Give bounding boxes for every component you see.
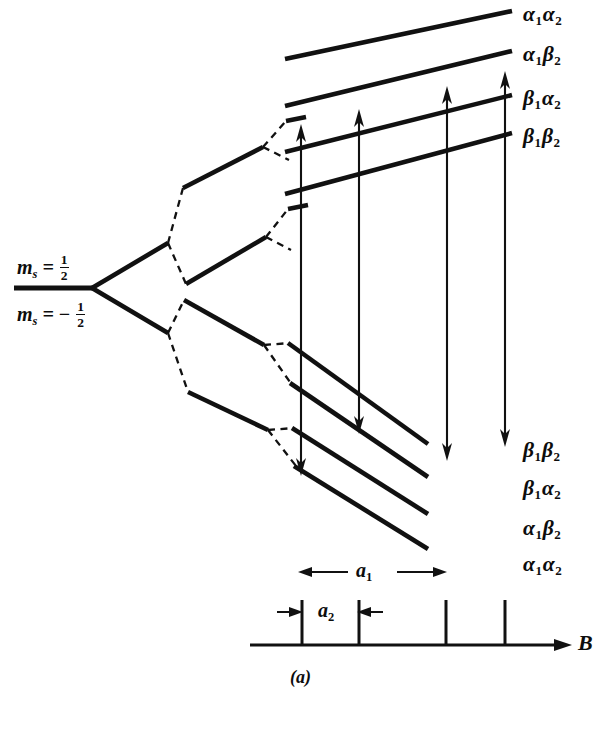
state-label-lower-a1a2: α1α2: [523, 554, 563, 577]
level-mid-lower-2: [188, 392, 268, 430]
level-mid-upper-2: [186, 237, 266, 284]
ms-lower-denominator: 2: [76, 315, 85, 329]
level-mid-upper-1: [183, 147, 263, 188]
state-label-upper-b1a2: β1α2: [523, 88, 562, 111]
coupling-a1-symbol: a: [356, 559, 366, 581]
transition-arrow-1: [296, 124, 306, 476]
glyph-sub: 1: [535, 13, 542, 28]
level-lower-a1a2: [294, 466, 428, 549]
glyph-sub: 1: [535, 563, 542, 578]
figure-caption: (a): [290, 668, 311, 686]
diagram-canvas: [0, 0, 601, 732]
dash-upper-fork-2b: [266, 237, 291, 250]
dash-upper-fork-1b: [263, 147, 289, 160]
ms-upper-numerator: 1: [60, 253, 69, 268]
state-label-upper-b1b2: β1β2: [523, 126, 561, 149]
level-mid-lower-1: [184, 300, 264, 345]
glyph-alpha: α: [523, 552, 535, 576]
ms-upper-eq: =: [37, 256, 58, 278]
glyph-beta: β: [543, 516, 554, 540]
glyph-beta: β: [523, 124, 534, 148]
coupling-label-a1: a1: [356, 560, 372, 583]
ms-label-lower: ms = − 12: [17, 300, 85, 330]
dash-upper-split-b: [168, 243, 186, 284]
glyph-sub: 2: [555, 13, 562, 28]
ms-lower-eq: =: [37, 303, 58, 325]
glyph-sub: 2: [554, 527, 561, 542]
fork-branch-upper: [92, 243, 168, 288]
state-label-upper-a1b2: α1β2: [523, 44, 562, 67]
ms-upper-denominator: 2: [60, 268, 69, 282]
glyph-alpha: α: [523, 42, 535, 66]
coupling-a2-sub: 2: [328, 610, 334, 624]
dash-lower-fork-2b: [268, 430, 296, 466]
spectrum-axis-arrowhead: [554, 639, 572, 651]
coupling-measure-a1: [298, 567, 447, 577]
coupling-label-a2: a2: [318, 600, 334, 623]
transition-arrow-3: [442, 86, 452, 461]
level-upper-a1b2: [285, 51, 512, 106]
glyph-sub: 2: [554, 53, 561, 68]
transition-arrow-2: [354, 109, 364, 434]
glyph-alpha: α: [543, 552, 555, 576]
glyph-beta: β: [523, 438, 534, 462]
glyph-alpha: α: [523, 516, 535, 540]
level-lower-a1b2: [292, 428, 428, 514]
level-upper-a1a2: [285, 11, 512, 59]
glyph-sub: 2: [554, 487, 561, 502]
level-upper-connector-1: [286, 117, 306, 121]
glyph-alpha: α: [523, 2, 535, 26]
dash-lower-fork-1b: [264, 345, 292, 385]
ms-lower-fraction: 12: [76, 300, 85, 330]
dash-lower-split-b: [168, 333, 188, 392]
glyph-sub: 1: [535, 487, 542, 502]
dash-lower-fork-1a: [264, 343, 290, 345]
state-label-upper-a1a2: α1α2: [523, 4, 563, 27]
coupling-a2-symbol: a: [318, 599, 328, 621]
state-label-lower-a1b2: α1β2: [523, 518, 562, 541]
dash-lower-split-a: [168, 300, 184, 333]
glyph-beta: β: [542, 438, 553, 462]
fork-branch-lower: [92, 288, 168, 333]
glyph-alpha: α: [543, 2, 555, 26]
dash-upper-fork-2a: [266, 209, 288, 237]
glyph-sub: 1: [535, 97, 542, 112]
glyph-sub: 1: [535, 449, 542, 464]
dash-upper-fork-1a: [263, 121, 286, 147]
energy-level-figure: ms = 12 ms = − 12 α1α2 α1β2 β1α2 β1β2 β1…: [0, 0, 601, 732]
ms-upper-symbol: m: [17, 256, 33, 278]
dash-lower-fork-2a: [268, 428, 294, 430]
glyph-sub: 2: [555, 563, 562, 578]
ms-lower-symbol: m: [17, 303, 33, 325]
glyph-sub: 2: [553, 449, 560, 464]
glyph-beta: β: [523, 476, 534, 500]
glyph-sub: 2: [553, 135, 560, 150]
dash-upper-split-a: [168, 188, 183, 243]
glyph-alpha: α: [542, 476, 554, 500]
glyph-beta: β: [542, 124, 553, 148]
glyph-alpha: α: [542, 86, 554, 110]
glyph-sub: 1: [535, 527, 542, 542]
ms-label-upper: ms = 12: [17, 253, 69, 283]
glyph-sub: 1: [535, 53, 542, 68]
state-label-lower-b1a2: β1α2: [523, 478, 562, 501]
ms-upper-fraction: 12: [60, 253, 69, 283]
state-label-lower-b1b2: β1β2: [523, 440, 561, 463]
glyph-beta: β: [523, 86, 534, 110]
transition-arrow-4: [500, 71, 510, 447]
axis-label-b: B: [578, 632, 593, 654]
coupling-a1-sub: 1: [366, 570, 372, 584]
glyph-sub: 2: [554, 97, 561, 112]
glyph-beta: β: [543, 42, 554, 66]
ms-lower-numerator: 1: [76, 300, 85, 315]
ms-lower-sign: −: [59, 303, 75, 325]
level-upper-connector-2: [288, 205, 308, 209]
glyph-sub: 1: [535, 135, 542, 150]
